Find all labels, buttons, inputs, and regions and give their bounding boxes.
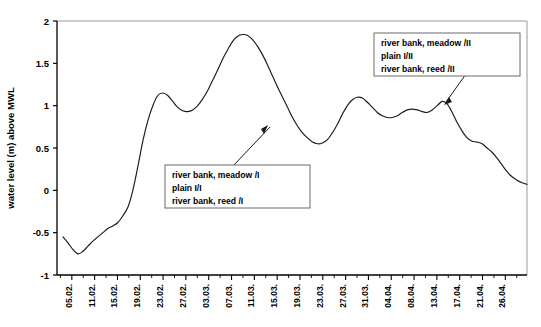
x-tick-label: 19.02.	[132, 284, 142, 308]
x-tick-label: 31.03.	[360, 284, 370, 308]
annotation-II-line-1: river bank, meadow /II	[381, 38, 471, 48]
y-tick-label: 1	[44, 100, 50, 111]
x-tick-label: 27.03.	[338, 284, 348, 308]
chart-container: 21.510.50-0.5-1 05.02.11.02.15.02.19.02.…	[0, 0, 541, 327]
x-tick-label: 15.03.	[269, 284, 279, 308]
x-tick-label: 04.04.	[383, 284, 393, 308]
y-tick-label: 0	[44, 185, 49, 196]
x-tick-label: 21.04.	[475, 284, 485, 308]
annotation-II-line-3: river bank, reed /II	[381, 64, 455, 74]
water-level-line-chart: 21.510.50-0.5-1 05.02.11.02.15.02.19.02.…	[0, 0, 541, 327]
x-tick-label: 03.03.	[201, 284, 211, 308]
y-tick-label: 1.5	[36, 58, 50, 69]
annotation-I-line-2: plain I/I	[172, 183, 202, 193]
x-tick-label: 11.02.	[87, 284, 97, 307]
x-tick-label: 15.02.	[109, 284, 119, 308]
y-tick-label: 0.5	[36, 143, 50, 154]
x-tick-label: 23.03.	[315, 284, 325, 308]
annotation-I-line-3: river bank, reed /I	[172, 196, 243, 206]
annotation-I-line-1: river bank, meadow /I	[172, 170, 259, 180]
y-tick-label: -0.5	[33, 227, 50, 238]
x-tick-label: 13.04.	[429, 284, 439, 308]
y-axis-title: water level (m) above MWL	[5, 87, 16, 210]
x-tick-label: 17.04.	[452, 284, 462, 308]
y-tick-label: 2	[44, 16, 49, 27]
x-tick-label: 26.04.	[497, 284, 507, 308]
x-tick-label: 27.02.	[178, 284, 188, 308]
annotation-II-line-2: plain I/II	[381, 51, 413, 61]
x-tick-label: 11.03.	[246, 284, 256, 307]
x-tick-label: 05.02.	[64, 284, 74, 308]
x-tick-label: 07.03.	[224, 284, 234, 308]
x-tick-label: 23.02.	[155, 284, 165, 308]
y-tick-label: -1	[41, 270, 50, 281]
x-tick-label: 08.04.	[406, 284, 416, 308]
x-tick-label: 19.03.	[292, 284, 302, 308]
